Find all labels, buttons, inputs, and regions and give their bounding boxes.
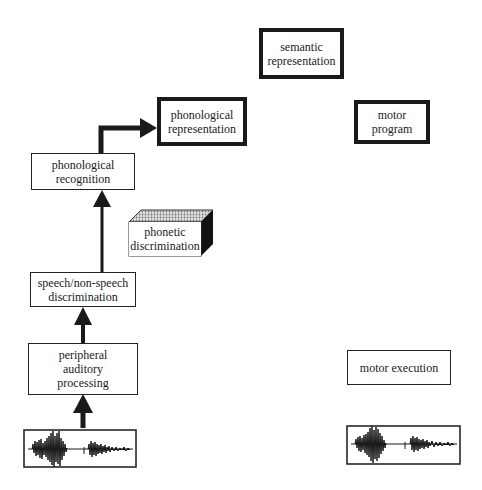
speech-nonspeech-label-2: discrimination [48,290,117,304]
diagram-connections [0,0,482,490]
arrow-peripheral-to-speech [74,307,92,343]
motor-execution-label: motor execution [360,361,438,375]
arrow-recognition-to-representation [101,118,157,153]
peripheral-auditory-processing-box: peripheral auditory processing [28,343,138,395]
phonological-representation-label-2: representation [168,122,236,136]
motor-program-box: motor program [354,100,430,144]
peripheral-auditory-label-2: auditory [63,362,103,376]
semantic-representation-box: semantic representation [259,28,344,79]
phonetic-discrimination-box: phonetic discrimination [129,222,201,256]
phonological-recognition-label-1: phonological [52,158,115,172]
motor-program-label-1: motor [378,108,407,122]
phonological-representation-label-1: phonological [171,108,234,122]
peripheral-auditory-label-1: peripheral [59,348,108,362]
phonological-recognition-box: phonological recognition [31,153,135,190]
phonological-recognition-label-2: recognition [56,172,111,186]
phonetic-discrimination-label-1: phonetic [144,225,185,239]
phonetic-discrimination-label-2: discrimination [130,239,199,253]
speech-nonspeech-label-1: speech/non-speech [38,276,129,290]
peripheral-auditory-label-3: processing [57,376,108,390]
semantic-representation-label-1: semantic [280,40,323,54]
semantic-representation-label-2: representation [268,54,336,68]
speech-nonspeech-discrimination-box: speech/non-speech discrimination [30,272,136,307]
output-waveform [347,426,460,464]
arrow-waveform-to-peripheral [73,394,93,428]
motor-execution-box: motor execution [347,350,451,385]
motor-program-label-2: program [372,122,413,136]
phonological-representation-box: phonological representation [157,97,247,146]
arrow-speech-to-recognition [93,190,111,272]
input-waveform [24,430,136,467]
